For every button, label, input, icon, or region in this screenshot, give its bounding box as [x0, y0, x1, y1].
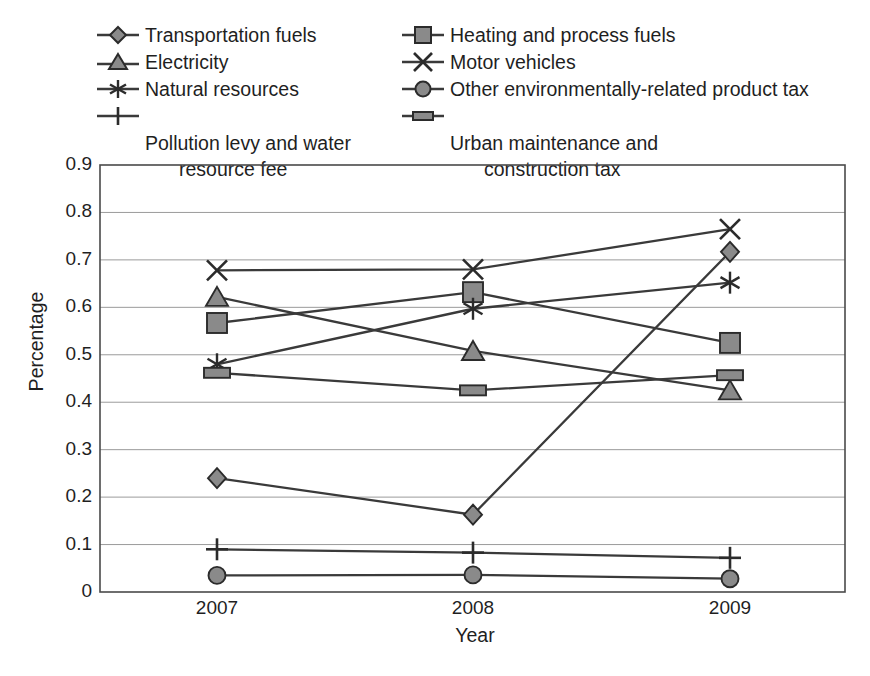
y-axis-tick-label: 0.8 [46, 200, 92, 222]
data-marker [207, 313, 227, 333]
series-line [217, 229, 730, 270]
data-marker [204, 368, 230, 378]
series-markers [204, 219, 743, 587]
y-axis-tick-label: 0.5 [46, 343, 92, 365]
line-chart: 00.10.20.30.40.50.60.70.80.9 Percentage … [0, 0, 870, 676]
y-axis-tick-label: 0.2 [46, 485, 92, 507]
x-axis-title: Year [400, 624, 550, 647]
data-marker [460, 385, 486, 395]
data-marker [722, 570, 739, 587]
plot-svg [0, 0, 870, 676]
y-axis-tick-label: 0.7 [46, 248, 92, 270]
x-axis-tick-label: 2008 [428, 597, 518, 619]
x-axis-tick-label: 2007 [172, 597, 262, 619]
data-marker [209, 567, 226, 584]
y-axis-tick-label: 0.4 [46, 390, 92, 412]
y-axis-tick-label: 0.9 [46, 153, 92, 175]
y-axis-tick-label: 0.3 [46, 438, 92, 460]
x-axis-tick-label: 2009 [685, 597, 775, 619]
data-marker [717, 370, 743, 380]
data-marker [719, 547, 741, 569]
data-marker [206, 287, 228, 306]
data-marker [465, 566, 482, 583]
y-axis-tick-label: 0.6 [46, 295, 92, 317]
y-axis-tick-label: 0.1 [46, 533, 92, 555]
data-marker [720, 333, 740, 353]
y-axis-title: Percentage [25, 262, 48, 422]
data-marker [208, 468, 226, 488]
y-axis-tick-label: 0 [46, 580, 92, 602]
data-marker [206, 538, 228, 560]
